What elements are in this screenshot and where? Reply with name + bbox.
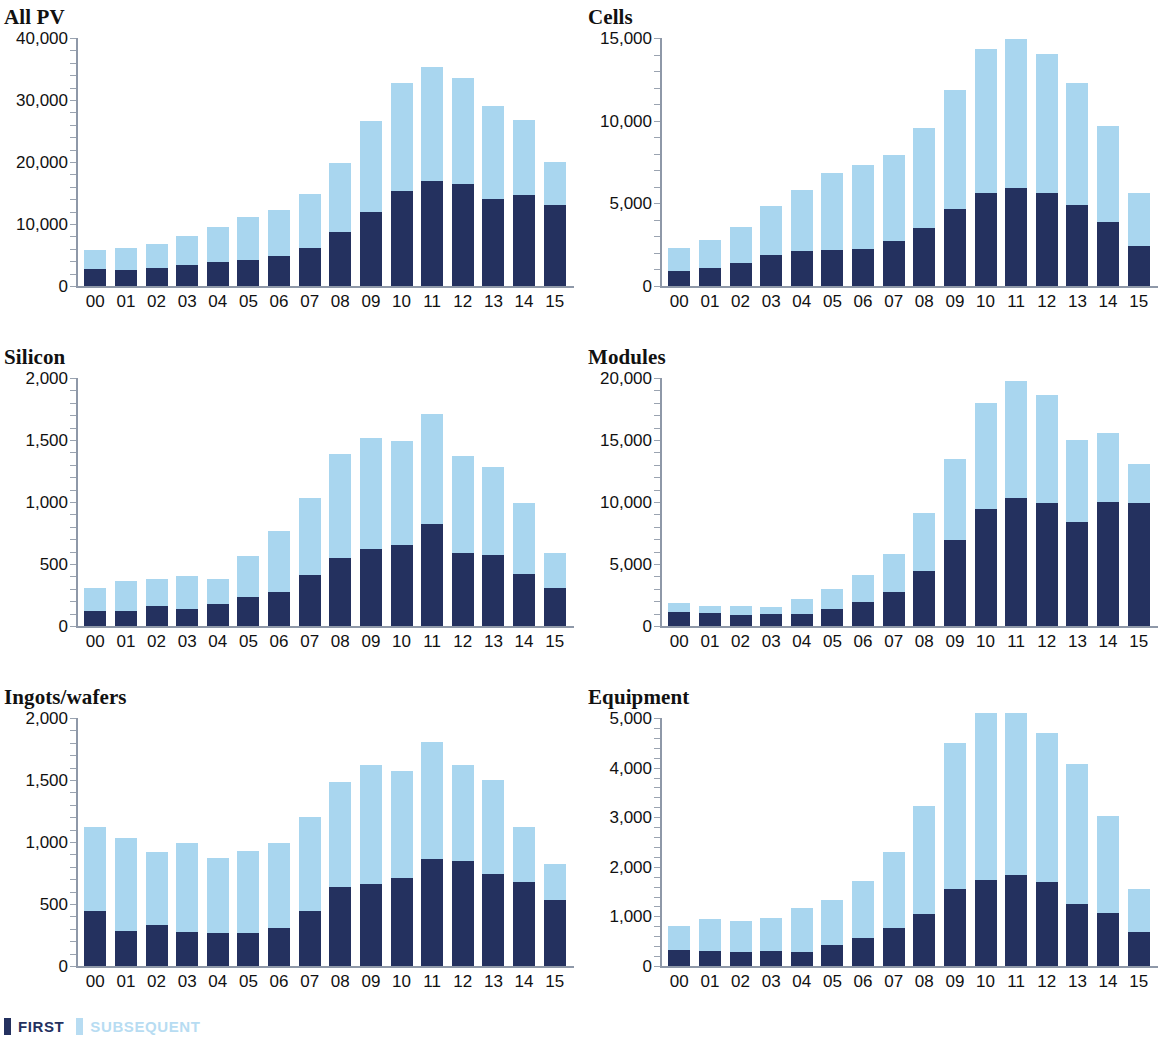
bar-segment-subsequent <box>513 503 535 574</box>
x-axis-tick-label: 15 <box>539 292 570 312</box>
bar-segment-first <box>1005 875 1027 966</box>
y-axis-minor-tick <box>654 253 660 254</box>
bar-column <box>80 38 111 286</box>
bar-column <box>664 378 695 626</box>
y-axis-minor-tick <box>654 428 660 429</box>
bar-segment-subsequent <box>883 554 905 592</box>
bar-segment-first <box>760 614 782 626</box>
stacked-bar <box>883 852 905 966</box>
bar-segment-subsequent <box>1097 816 1119 913</box>
y-axis-minor-tick <box>70 743 76 744</box>
y-axis-minor-tick <box>654 452 660 453</box>
y-axis-minor-tick <box>70 274 76 275</box>
bar-column <box>356 378 387 626</box>
bar-segment-first <box>421 181 443 286</box>
y-axis-minor-tick <box>654 477 660 478</box>
bar-segment-subsequent <box>852 881 874 938</box>
x-axis-line <box>660 966 1158 968</box>
y-axis-minor-tick <box>70 75 76 76</box>
bar-column <box>725 718 756 966</box>
bar-segment-first <box>944 540 966 626</box>
bar-segment-subsequent <box>1128 889 1150 932</box>
bar-segment-subsequent <box>329 163 351 232</box>
bar-column <box>1123 38 1154 286</box>
y-axis-minor-tick <box>654 946 660 947</box>
bar-segment-first <box>1128 503 1150 626</box>
legend-item-subsequent: SUBSEQUENT <box>76 1018 200 1035</box>
bar-segment-first <box>360 212 382 286</box>
x-axis-tick-label: 13 <box>478 632 509 652</box>
bar-column <box>878 38 909 286</box>
bar-segment-first <box>699 613 721 626</box>
stacked-bar <box>84 827 106 966</box>
bar-segment-first <box>452 184 474 286</box>
legend-label-first: FIRST <box>18 1018 64 1035</box>
y-axis-ticks <box>654 378 660 626</box>
x-axis-tick-label: 05 <box>233 632 264 652</box>
bar-segment-first <box>1036 882 1058 966</box>
bar-segment-subsequent <box>852 575 874 602</box>
x-axis-tick-label: 09 <box>356 632 387 652</box>
bar-segment-subsequent <box>391 441 413 545</box>
x-axis-tick-label: 01 <box>111 292 142 312</box>
bar-column <box>264 378 295 626</box>
bar-segment-first <box>699 951 721 966</box>
stacked-bar <box>421 414 443 626</box>
y-axis-tick-label: 1,000 <box>609 908 652 925</box>
bar-segment-first <box>913 228 935 286</box>
bar-column <box>1001 38 1032 286</box>
stacked-bar <box>544 553 566 626</box>
stacked-bar <box>668 248 690 286</box>
stacked-bar <box>146 579 168 626</box>
stacked-bar <box>482 467 504 626</box>
stacked-bar <box>1128 889 1150 966</box>
y-axis-tick-label: 0 <box>643 618 652 635</box>
y-axis-labels: 05001,0001,5002,000 <box>0 378 74 678</box>
bar-segment-first <box>852 938 874 966</box>
bar-segment-subsequent <box>360 121 382 212</box>
y-axis-minor-tick <box>70 929 76 930</box>
bar-segment-first <box>852 602 874 626</box>
y-axis-minor-tick <box>70 187 76 188</box>
x-axis-line <box>660 626 1158 628</box>
bar-column <box>725 378 756 626</box>
x-axis-labels: 00010203040506070809101112131415 <box>664 632 1154 652</box>
x-axis-tick-label: 00 <box>664 292 695 312</box>
y-axis-tick-label: 500 <box>40 556 68 573</box>
stacked-bar <box>1097 816 1119 966</box>
x-axis-tick-label: 03 <box>172 972 203 992</box>
bar-column <box>172 378 203 626</box>
y-axis-tick-label: 5,000 <box>609 195 652 212</box>
bar-column <box>356 718 387 966</box>
bar-column <box>1093 718 1124 966</box>
y-axis-minor-tick <box>70 88 76 89</box>
y-axis-minor-tick <box>70 539 76 540</box>
y-axis-minor-tick <box>654 758 660 759</box>
y-axis-line <box>76 378 78 626</box>
y-axis-minor-tick <box>70 626 76 627</box>
bar-segment-subsequent <box>84 827 106 912</box>
bar-segment-first <box>299 248 321 286</box>
bar-column <box>233 378 264 626</box>
stacked-bar <box>452 78 474 286</box>
bar-column <box>787 38 818 286</box>
bar-column <box>539 38 570 286</box>
x-axis-line <box>76 626 574 628</box>
bar-segment-first <box>791 614 813 626</box>
x-axis-tick-label: 12 <box>1032 972 1063 992</box>
bar-column <box>1032 378 1063 626</box>
axis-area: 05,00010,00015,00020,0000001020304050607… <box>584 378 1158 678</box>
bar-segment-first <box>975 509 997 626</box>
x-axis-tick-label: 00 <box>80 292 111 312</box>
bar-segment-first <box>421 524 443 626</box>
y-axis-ticks <box>654 718 660 966</box>
y-axis-tick-label: 1,000 <box>25 494 68 511</box>
stacked-bar <box>237 556 259 626</box>
bar-column <box>1093 378 1124 626</box>
x-axis-tick-label: 01 <box>695 972 726 992</box>
y-axis-tick-label: 0 <box>643 958 652 975</box>
bar-column <box>417 38 448 286</box>
y-axis-minor-tick <box>654 121 660 122</box>
bar-segment-subsequent <box>452 78 474 185</box>
bar-segment-subsequent <box>1036 54 1058 194</box>
